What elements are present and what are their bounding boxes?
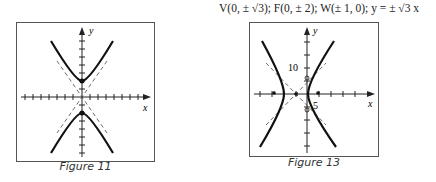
x-axis-label: x [367,98,373,109]
figure-13-caption: Figure 13 [249,156,379,169]
y-axis-label: y [88,25,94,36]
hyperbola-answer-line: V(0, ± √3); F(0, ± 2); W(± 1, 0); y = ± … [219,2,419,14]
y-axis-label: y [312,25,318,36]
foci-text: F(0, ± 2); [274,2,318,14]
w-points-text: W(± 1, 0); [320,2,368,14]
x-axis-label: x [142,102,148,113]
figure-11-graph: y x [17,23,154,161]
figure-13-graph: 10 5 y x [250,23,378,156]
figure-11-caption: Figure 11 [16,160,155,173]
y-tick-label: 10 [288,62,298,73]
figure-13-frame: 10 5 y x [249,22,379,157]
vertices-text: V(0, ± √3); [219,2,271,14]
asymptotes-text: y = ± √3 x [371,2,419,14]
figure-11-frame: y x [16,22,155,162]
x-tick-label: 5 [313,100,318,111]
